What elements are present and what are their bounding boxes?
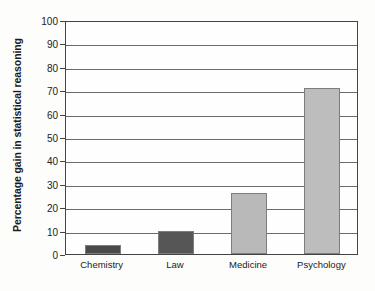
chart-figure: Percentage gain in statistical reasoning… xyxy=(0,0,375,291)
y-tick-label: 10 xyxy=(32,226,58,237)
x-axis-label: Law xyxy=(166,259,183,270)
gridline xyxy=(66,45,357,46)
y-tick-mark xyxy=(60,255,65,256)
bar xyxy=(231,193,267,254)
y-tick-label: 100 xyxy=(32,16,58,27)
y-tick-label: 50 xyxy=(32,133,58,144)
x-axis-category-labels: ChemistryLawMedicinePsychology xyxy=(65,259,358,281)
y-axis-ticks: 0102030405060708090100 xyxy=(0,0,65,291)
y-tick-label: 0 xyxy=(32,250,58,261)
y-tick-label: 30 xyxy=(32,179,58,190)
bar xyxy=(304,88,340,254)
y-tick-label: 40 xyxy=(32,156,58,167)
y-tick-label: 20 xyxy=(32,203,58,214)
plot-area xyxy=(65,21,358,255)
y-tick-label: 70 xyxy=(32,86,58,97)
y-tick-label: 90 xyxy=(32,39,58,50)
x-axis-label: Psychology xyxy=(297,259,346,270)
y-tick-label: 80 xyxy=(32,62,58,73)
bar xyxy=(158,231,194,254)
gridline xyxy=(66,69,357,70)
y-tick-label: 60 xyxy=(32,109,58,120)
x-axis-label: Chemistry xyxy=(80,259,123,270)
bar xyxy=(85,245,121,254)
x-axis-label: Medicine xyxy=(229,259,267,270)
